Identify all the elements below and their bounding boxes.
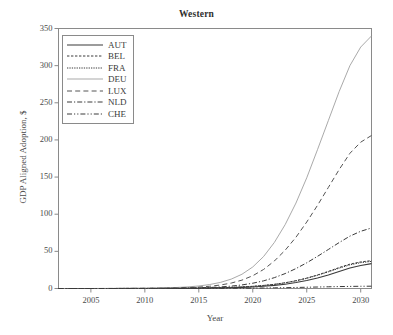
legend-item-deu[interactable]: DEU bbox=[65, 74, 131, 86]
legend-swatch-nld bbox=[65, 97, 105, 107]
legend-label: DEU bbox=[105, 74, 127, 84]
legend-swatch-deu bbox=[65, 74, 105, 84]
legend-swatch-lux bbox=[65, 86, 105, 96]
legend-swatch-che bbox=[65, 109, 105, 119]
legend-item-bel[interactable]: BEL bbox=[65, 51, 131, 63]
legend-label: FRA bbox=[105, 63, 126, 73]
series-line-fra bbox=[59, 261, 372, 288]
legend-label: LUX bbox=[105, 86, 127, 96]
series-line-nld bbox=[59, 228, 372, 289]
y-tick-label: 350 bbox=[19, 23, 53, 33]
legend-item-nld[interactable]: NLD bbox=[65, 97, 131, 109]
legend-item-lux[interactable]: LUX bbox=[65, 85, 131, 97]
legend-label: CHE bbox=[105, 109, 126, 119]
y-tick-label: 300 bbox=[19, 60, 53, 70]
y-tick-label: 50 bbox=[19, 245, 53, 255]
y-tick-label: 100 bbox=[19, 208, 53, 218]
legend-item-che[interactable]: CHE bbox=[65, 108, 131, 120]
chart-legend: AUTBELFRADEULUXNLDCHE bbox=[62, 35, 134, 124]
x-tick-label: 2005 bbox=[71, 295, 111, 305]
legend-label: AUT bbox=[105, 40, 127, 50]
chart-figure: Western GDP Aligned Adoption, $ 05010015… bbox=[0, 0, 393, 335]
legend-swatch-aut bbox=[65, 40, 105, 50]
plot-area bbox=[0, 0, 393, 335]
legend-item-fra[interactable]: FRA bbox=[65, 62, 131, 74]
legend-swatch-fra bbox=[65, 63, 105, 73]
y-tick-label: 250 bbox=[19, 97, 53, 107]
x-tick-label: 2030 bbox=[341, 295, 381, 305]
y-tick-label: 150 bbox=[19, 171, 53, 181]
series-line-aut bbox=[59, 264, 372, 289]
x-tick-label: 2010 bbox=[125, 295, 165, 305]
series-line-bel bbox=[59, 261, 372, 289]
x-axis-label: Year bbox=[58, 313, 372, 323]
y-tick-label: 0 bbox=[19, 283, 53, 293]
legend-label: BEL bbox=[105, 51, 125, 61]
series-line-lux bbox=[59, 135, 372, 288]
legend-label: NLD bbox=[105, 97, 127, 107]
x-tick-label: 2020 bbox=[233, 295, 273, 305]
x-tick-label: 2025 bbox=[287, 295, 327, 305]
legend-item-aut[interactable]: AUT bbox=[65, 39, 131, 51]
y-tick-label: 200 bbox=[19, 134, 53, 144]
x-tick-label: 2015 bbox=[179, 295, 219, 305]
legend-swatch-bel bbox=[65, 51, 105, 61]
